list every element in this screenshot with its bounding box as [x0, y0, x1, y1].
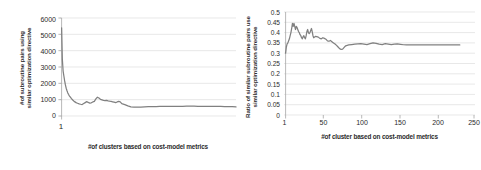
right-y-tick-0-2: 0.2 — [252, 71, 280, 78]
figure-container: #of subroutine pairs using similar optim… — [0, 0, 481, 170]
right-x-tick-50: 50 — [315, 119, 332, 126]
right-y-tick-0-5: 0.5 — [252, 10, 280, 17]
right-x-axis-title: #of cluster based on cost-model metrics — [284, 133, 475, 140]
right-chart-panel: Ratio of similar subroutine pairs use si… — [240, 0, 481, 170]
left-data-series — [62, 28, 236, 107]
right-x-tick-1: 1 — [276, 119, 293, 126]
right-x-tick-150: 150 — [390, 119, 410, 126]
right-data-series — [286, 23, 460, 53]
left-x-axis-title: #of clusters based on cost-model metrics — [60, 143, 236, 150]
left-x-tick-1: 1 — [52, 123, 70, 131]
right-y-tick-0-1: 0.1 — [252, 92, 280, 99]
right-y-tick-0-05: 0.05 — [252, 102, 280, 109]
right-y-tick-0-45: 0.45 — [252, 20, 280, 27]
left-y-tick-4000: 4000 — [22, 48, 56, 55]
right-y-tick-0-25: 0.25 — [252, 61, 280, 68]
right-y-tick-0-3: 0.3 — [252, 51, 280, 58]
left-y-tick-6000: 6000 — [22, 16, 56, 23]
right-plot-area — [284, 12, 475, 115]
left-y-tick-3000: 3000 — [22, 64, 56, 71]
left-y-tick-5000: 5000 — [22, 32, 56, 39]
right-plot-svg — [284, 12, 475, 115]
left-plot-svg — [60, 18, 236, 116]
right-y-tick-0-15: 0.15 — [252, 82, 280, 89]
left-y-tick-1000: 1000 — [22, 96, 56, 103]
left-y-tick-2000: 2000 — [22, 80, 56, 87]
right-x-tickmarks — [286, 115, 474, 119]
right-gridlines — [284, 12, 475, 115]
right-x-tick-200: 200 — [428, 119, 448, 126]
left-y-tick-0: 0 — [22, 112, 56, 119]
right-x-tick-100: 100 — [352, 119, 372, 126]
right-y-tick-0-4: 0.4 — [252, 30, 280, 37]
left-chart-panel: #of subroutine pairs using similar optim… — [0, 0, 240, 170]
right-x-tick-250: 250 — [464, 119, 481, 126]
right-y-tick-0-35: 0.35 — [252, 40, 280, 47]
left-plot-area — [60, 18, 236, 116]
